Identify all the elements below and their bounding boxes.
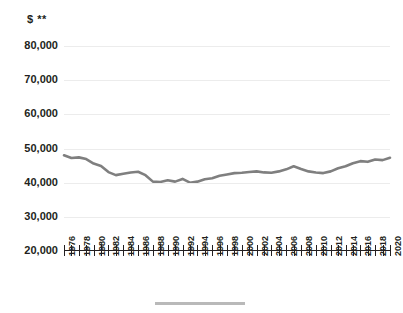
x-axis-tick-label: 2010 xyxy=(320,236,329,256)
x-axis-tick-label: 1990 xyxy=(172,236,181,256)
x-axis-tick xyxy=(286,245,287,256)
x-axis-tick xyxy=(168,245,169,256)
x-axis-tick-label: 1986 xyxy=(142,236,151,256)
x-axis-tick xyxy=(183,245,184,256)
x-axis-tick-label: 1992 xyxy=(187,236,196,256)
x-axis-tick xyxy=(197,245,198,256)
x-axis-tick xyxy=(375,245,376,256)
x-axis-tick xyxy=(94,245,95,256)
x-axis-tick xyxy=(301,245,302,256)
x-axis-tick xyxy=(108,245,109,256)
x-axis-tick-label: 2014 xyxy=(350,236,359,256)
x-axis-tick-label: 1984 xyxy=(127,236,136,256)
gridline xyxy=(64,217,390,218)
x-axis-tick xyxy=(316,245,317,256)
x-axis-tick-label: 2006 xyxy=(290,236,299,256)
x-axis-tick-label: 1998 xyxy=(231,236,240,256)
x-axis-tick-label: 1994 xyxy=(201,236,210,256)
x-axis-tick-label: 1978 xyxy=(83,236,92,256)
x-axis-tick-label: 2000 xyxy=(246,236,255,256)
x-axis-tick-label: 2004 xyxy=(275,236,284,256)
plot-area xyxy=(64,46,390,251)
x-axis-tick-label: 2020 xyxy=(394,236,403,256)
x-axis-tick xyxy=(123,245,124,256)
y-axis-tick-label: 40,000 xyxy=(4,177,58,188)
legend-bar xyxy=(155,302,245,305)
x-axis-tick-label: 1996 xyxy=(216,236,225,256)
y-axis-tick-label: 20,000 xyxy=(4,245,58,256)
y-axis-tick-label: 30,000 xyxy=(4,211,58,222)
y-axis-tick-label: 80,000 xyxy=(4,40,58,51)
x-axis-tick xyxy=(271,245,272,256)
x-axis-tick-label: 2012 xyxy=(335,236,344,256)
y-axis-tick-label: 70,000 xyxy=(4,74,58,85)
x-axis-tick-label: 1976 xyxy=(68,236,77,256)
gridline xyxy=(64,114,390,115)
gridline xyxy=(64,80,390,81)
x-axis-tick xyxy=(153,245,154,256)
x-axis-tick-label: 2018 xyxy=(379,236,388,256)
x-axis-tick-label: 2002 xyxy=(261,236,270,256)
x-axis-tick xyxy=(331,245,332,256)
y-axis-tick-labels: 80,00070,00060,00050,00040,00030,00020,0… xyxy=(0,0,58,313)
x-axis-tick-label: 1982 xyxy=(112,236,121,256)
x-axis-tick xyxy=(360,245,361,256)
x-axis-tick-label: 1980 xyxy=(98,236,107,256)
x-axis-tick xyxy=(390,245,391,256)
x-axis-tick-label: 2008 xyxy=(305,236,314,256)
x-axis-tick xyxy=(242,245,243,256)
x-axis-tick xyxy=(212,245,213,256)
gridline xyxy=(64,183,390,184)
y-axis-tick-label: 60,000 xyxy=(4,108,58,119)
gridline xyxy=(64,46,390,47)
series-polyline xyxy=(64,155,390,182)
x-axis-tick xyxy=(346,245,347,256)
x-axis-tick-label: 2016 xyxy=(364,236,373,256)
x-axis-tick xyxy=(257,245,258,256)
gridline xyxy=(64,149,390,150)
y-axis-tick-label: 50,000 xyxy=(4,143,58,154)
x-axis-tick xyxy=(138,245,139,256)
x-axis-tick xyxy=(64,245,65,256)
x-axis-tick xyxy=(227,245,228,256)
x-axis-tick xyxy=(79,245,80,256)
x-axis-tick-label: 1988 xyxy=(157,236,166,256)
x-axis-tick-labels: 1976197819801982198419861988199019921994… xyxy=(64,256,390,300)
